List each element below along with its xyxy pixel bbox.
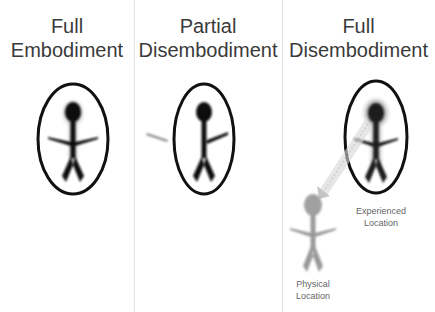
- physical-location-label: Physical Location: [283, 278, 343, 302]
- embodied-figure: [38, 84, 108, 194]
- experienced-location-label: Experienced Location: [346, 205, 416, 229]
- label-line-1: Experienced: [346, 205, 416, 217]
- diagram-canvas: [0, 0, 435, 312]
- detached-arm: [146, 133, 168, 142]
- label-line-1: Physical: [283, 278, 343, 290]
- physical-figure: [290, 194, 336, 272]
- partially-disembodied-figure: [146, 84, 234, 194]
- label-line-2: Location: [283, 290, 343, 302]
- label-line-2: Location: [346, 217, 416, 229]
